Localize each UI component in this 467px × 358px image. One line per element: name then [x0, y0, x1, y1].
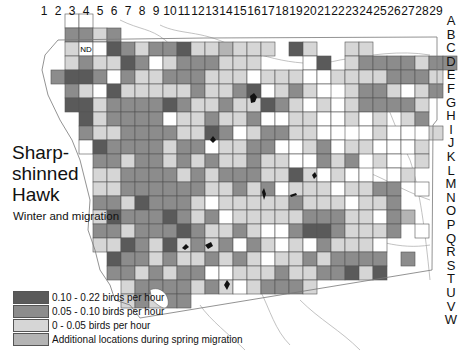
grid-cell [177, 112, 191, 126]
grid-cell [331, 98, 345, 112]
survey-grid [51, 14, 457, 308]
grid-cell [135, 224, 149, 238]
grid-cell [163, 210, 177, 224]
grid-cell [429, 56, 443, 70]
grid-cell [401, 84, 415, 98]
grid-cell [135, 56, 149, 70]
column-label: 21 [317, 4, 331, 18]
grid-cell [247, 56, 261, 70]
grid-cell [135, 196, 149, 210]
grid-cell [289, 84, 303, 98]
grid-cell [163, 154, 177, 168]
grid-cell [303, 252, 317, 266]
grid-cell [317, 224, 331, 238]
grid-cell [289, 140, 303, 154]
grid-cell [149, 252, 163, 266]
grid-cell [191, 98, 205, 112]
column-label: 15 [233, 4, 247, 18]
grid-cell [247, 280, 261, 294]
grid-cell [233, 112, 247, 126]
grid-cell [275, 252, 289, 266]
grid-cell [387, 154, 401, 168]
grid-cell [107, 196, 121, 210]
grid-cell [345, 266, 359, 280]
grid-cell [233, 252, 247, 266]
grid-cell [289, 252, 303, 266]
grid-cell [79, 84, 93, 98]
grid-cell [107, 182, 121, 196]
legend-label: Additional locations during spring migra… [52, 334, 243, 345]
grid-cell [261, 210, 275, 224]
grid-cell [373, 238, 387, 252]
grid-cell [415, 182, 429, 196]
grid-cell [345, 84, 359, 98]
grid-cell [415, 154, 429, 168]
grid-cell [233, 182, 247, 196]
grid-cell [317, 140, 331, 154]
grid-cell [93, 70, 107, 84]
grid-cell [317, 168, 331, 182]
grid-cell [93, 56, 107, 70]
grid-cell [233, 84, 247, 98]
grid-cell [387, 126, 401, 140]
grid-cell [163, 182, 177, 196]
grid-cell [233, 196, 247, 210]
grid-cell [65, 84, 79, 98]
grid-cell [289, 210, 303, 224]
grid-cell [317, 182, 331, 196]
grid-cell [345, 98, 359, 112]
grid-cell [275, 70, 289, 84]
grid-cell [219, 266, 233, 280]
grid-cell [261, 126, 275, 140]
grid-cell [121, 42, 135, 56]
grid-cell [233, 126, 247, 140]
grid-cell [345, 56, 359, 70]
grid-cell [51, 70, 65, 84]
grid-cell [373, 252, 387, 266]
legend-swatch [13, 319, 49, 332]
grid-cell [345, 140, 359, 154]
column-label: 13 [205, 4, 219, 18]
grid-cell [163, 140, 177, 154]
title-line: Sharp- [12, 142, 79, 163]
grid-cell [359, 238, 373, 252]
grid-cell [205, 56, 219, 70]
grid-cell [429, 126, 443, 140]
grid-cell [205, 168, 219, 182]
column-label: 4 [79, 4, 93, 18]
grid-cell [317, 210, 331, 224]
grid-cell [163, 266, 177, 280]
grid-cell [149, 84, 163, 98]
grid-cell [289, 224, 303, 238]
grid-cell [261, 70, 275, 84]
grid-cell [121, 112, 135, 126]
grid-cell [261, 238, 275, 252]
grid-cell [429, 84, 443, 98]
grid-cell [107, 84, 121, 98]
column-label: 26 [387, 4, 401, 18]
grid-cell [415, 56, 429, 70]
grid-cell [387, 224, 401, 238]
grid-cell [79, 140, 93, 154]
column-label: 18 [275, 4, 289, 18]
grid-cell [205, 196, 219, 210]
map-title: Sharp- shinned Hawk [12, 142, 79, 205]
grid-cell [149, 98, 163, 112]
grid-cell [233, 238, 247, 252]
grid-cell [317, 84, 331, 98]
grid-cell [289, 126, 303, 140]
grid-cell [331, 126, 345, 140]
grid-cell [163, 112, 177, 126]
grid-cell [93, 224, 107, 238]
column-label: 9 [149, 4, 163, 18]
grid-cell [233, 70, 247, 84]
grid-cell [373, 70, 387, 84]
grid-cell [345, 70, 359, 84]
grid-cell [373, 140, 387, 154]
grid-cell [401, 56, 415, 70]
grid-cell [219, 56, 233, 70]
grid-cell [149, 70, 163, 84]
grid-cell [359, 252, 373, 266]
grid-cell [191, 210, 205, 224]
grid-cell [107, 98, 121, 112]
